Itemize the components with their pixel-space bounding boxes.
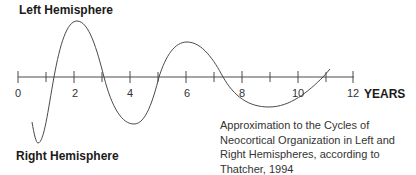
tick-label-8: 8: [239, 87, 245, 99]
tick-label-6: 6: [184, 87, 190, 99]
tick-label-12: 12: [347, 87, 359, 99]
diagram-caption: Approximation to the Cycles of Neocortic…: [220, 118, 416, 175]
tick-label-4: 4: [127, 87, 133, 99]
hemisphere-cycle-diagram: Left Hemisphere Right Hemisphere 0 2 4 6…: [0, 0, 416, 175]
tick-label-0: 0: [15, 87, 21, 99]
axis-unit-label: YEARS: [364, 87, 405, 101]
tick-label-2: 2: [72, 87, 78, 99]
tick-label-10: 10: [292, 87, 304, 99]
right-hemisphere-label: Right Hemisphere: [16, 149, 119, 163]
left-hemisphere-label: Left Hemisphere: [19, 3, 113, 17]
